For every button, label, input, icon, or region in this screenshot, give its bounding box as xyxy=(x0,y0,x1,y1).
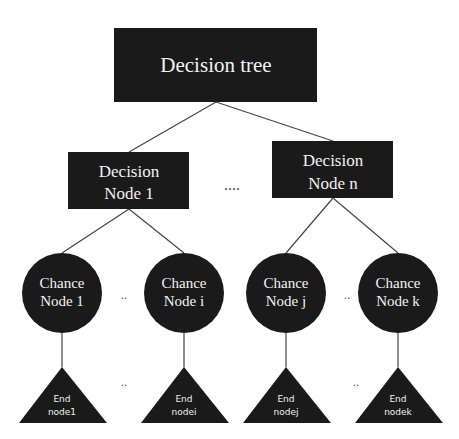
diagram-svg: Decision tree Decision Node 1 Decision N… xyxy=(0,0,459,439)
chance-node-i: Chance Node i xyxy=(144,253,224,333)
chance-ellipsis-left: .. xyxy=(121,287,128,302)
end-node-k-line1: End xyxy=(389,394,406,404)
end-node-j: End nodej xyxy=(243,367,331,423)
edge-decision1-chancei xyxy=(129,209,184,253)
decision-node-n-line2: Node n xyxy=(308,174,358,193)
edge-decisionn-chancek xyxy=(333,198,398,253)
edge-root-decision1 xyxy=(129,102,216,152)
chance-node-j-line2: Node j xyxy=(266,293,306,309)
chance-node-j-line1: Chance xyxy=(264,275,309,291)
chance-ellipsis-right: .. xyxy=(344,287,351,302)
chance-node-k-line1: Chance xyxy=(376,275,421,291)
end-ellipsis-left: .. xyxy=(121,374,128,389)
end-node-j-line1: End xyxy=(277,394,294,404)
end-node-1-line1: End xyxy=(53,394,70,404)
decision-node-n-line1: Decision xyxy=(303,151,364,170)
decision-node-1-line1: Decision xyxy=(99,162,160,181)
end-node-k: End nodek xyxy=(355,367,443,423)
decision-node-n: Decision Node n xyxy=(272,141,393,198)
end-node-1-line2: node1 xyxy=(48,407,76,417)
chance-node-1-line2: Node 1 xyxy=(40,293,84,309)
chance-node-1: Chance Node 1 xyxy=(22,253,102,333)
chance-node-1-line1: Chance xyxy=(40,275,85,291)
decision-node-1: Decision Node 1 xyxy=(68,152,189,209)
decision-ellipsis: .... xyxy=(224,176,240,193)
end-node-1: End node1 xyxy=(19,367,107,423)
end-ellipsis-right: .. xyxy=(353,374,360,389)
end-node-i-line1: End xyxy=(175,394,192,404)
edge-decision1-chance1 xyxy=(62,209,129,253)
end-node-j-line2: nodej xyxy=(274,407,299,417)
decision-tree-diagram: Decision tree Decision Node 1 Decision N… xyxy=(0,0,459,439)
root-node: Decision tree xyxy=(114,28,317,102)
decision-node-1-line2: Node 1 xyxy=(104,184,154,203)
chance-node-k-line2: Node k xyxy=(376,293,420,309)
edge-root-decisionn xyxy=(216,102,333,141)
end-node-k-line2: nodek xyxy=(384,407,412,417)
edge-decisionn-chancej xyxy=(286,198,333,253)
end-node-i: End nodei xyxy=(141,367,229,423)
chance-node-k: Chance Node k xyxy=(358,253,438,333)
root-label: Decision tree xyxy=(160,53,271,77)
chance-node-j: Chance Node j xyxy=(246,253,326,333)
end-node-i-line2: nodei xyxy=(172,407,197,417)
chance-node-i-line2: Node i xyxy=(164,293,204,309)
chance-node-i-line1: Chance xyxy=(162,275,207,291)
